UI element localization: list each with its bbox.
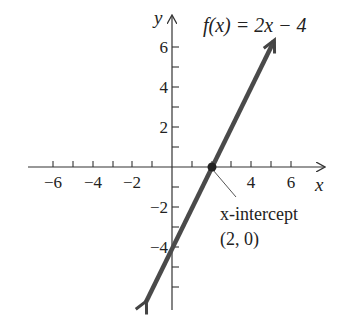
y-tick-label: −2	[150, 198, 168, 217]
y-tick-label: 4	[160, 78, 169, 97]
x-intercept-point	[208, 163, 217, 172]
function-label: f(x) = 2x − 4	[203, 14, 307, 37]
x-tick-label: −6	[44, 173, 62, 192]
y-tick-label: 6	[160, 38, 169, 57]
x-axis-label: x	[314, 174, 324, 195]
y-tick-label: 2	[160, 118, 169, 137]
graph-figure: −6 −4 −2 4 6 6 4 2 −2 −4 y x f(x) = 2x −…	[0, 0, 347, 329]
annotation-leader-line	[213, 170, 236, 197]
x-intercept-label: x-intercept	[220, 204, 298, 224]
x-tick-label: −4	[84, 173, 103, 192]
y-axis-label: y	[152, 7, 163, 28]
x-tick-label: 6	[287, 173, 296, 192]
x-tick-label: 4	[247, 173, 256, 192]
y-tick-label: −4	[150, 238, 169, 257]
x-intercept-coords: (2, 0)	[220, 229, 259, 250]
coordinate-plane: −6 −4 −2 4 6 6 4 2 −2 −4 y x f(x) = 2x −…	[0, 0, 347, 329]
x-tick-label: −2	[123, 173, 141, 192]
